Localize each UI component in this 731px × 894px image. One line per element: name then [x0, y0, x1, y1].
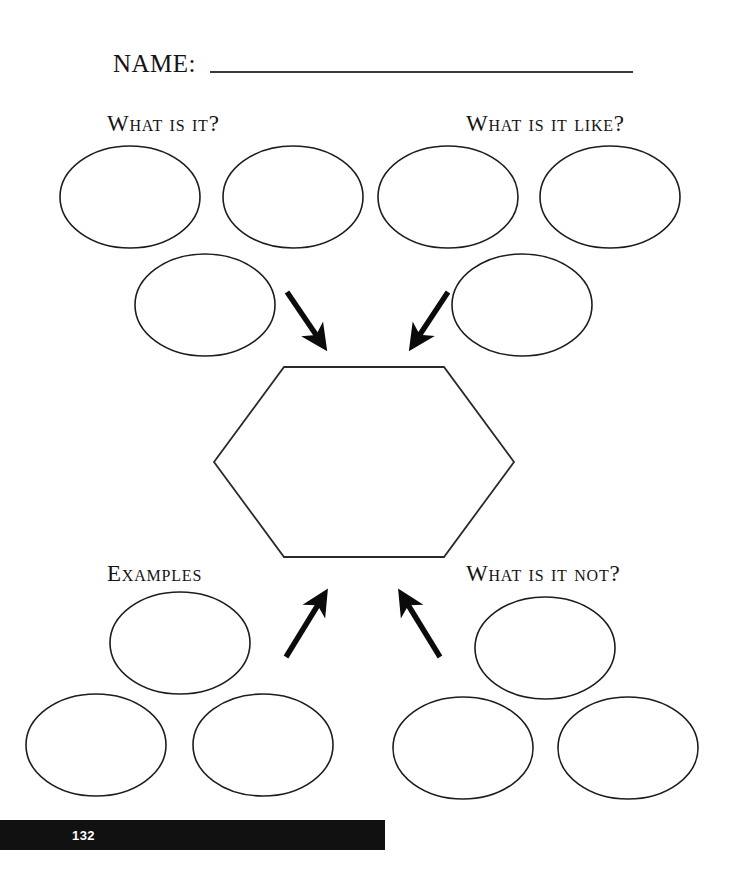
bubble-what-is-it-like-3[interactable]	[452, 254, 592, 356]
name-label: NAME:	[113, 50, 196, 77]
bubble-examples-3[interactable]	[193, 694, 333, 796]
heading-what-is-it-not: What is it not?	[466, 561, 621, 586]
bubble-what-is-it-1[interactable]	[60, 146, 200, 248]
bubble-what-is-it-not-1[interactable]	[475, 597, 615, 699]
bubble-what-is-it-like-2[interactable]	[540, 146, 680, 248]
bubble-what-is-it-2[interactable]	[223, 146, 363, 248]
footer-bar-background	[0, 820, 385, 850]
bubble-examples-2[interactable]	[26, 694, 166, 796]
heading-examples: Examples	[107, 561, 202, 586]
bubble-what-is-it-3[interactable]	[135, 254, 275, 356]
bubble-what-is-it-not-3[interactable]	[558, 697, 698, 799]
bubble-what-is-it-not-2[interactable]	[393, 697, 533, 799]
bubble-what-is-it-like-1[interactable]	[378, 146, 518, 248]
worksheet-page: NAME: What is it? What is it like? Examp…	[0, 0, 731, 894]
bubble-examples-1[interactable]	[110, 592, 250, 694]
page-number: 132	[72, 828, 95, 843]
worksheet-canvas: NAME: What is it? What is it like? Examp…	[0, 0, 731, 894]
heading-what-is-it-like: What is it like?	[466, 111, 625, 136]
heading-what-is-it: What is it?	[107, 111, 220, 136]
footer-bar: 132	[0, 820, 385, 850]
